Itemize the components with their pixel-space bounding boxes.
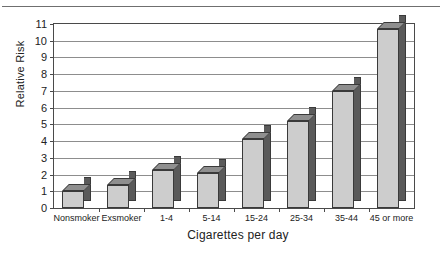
x-axis-category-label: 15-24	[245, 214, 268, 223]
x-axis-tick-mark	[99, 208, 100, 212]
bar	[152, 170, 174, 208]
y-axis-tick-mark	[50, 41, 54, 42]
x-axis-category-label: 1-4	[160, 214, 173, 223]
bar-front-face	[62, 191, 84, 208]
y-axis-tick-label: 7	[11, 85, 47, 96]
x-axis-category-label: Nonsmoker	[53, 214, 99, 223]
x-axis-tick-mark	[369, 208, 370, 212]
x-axis-tick-mark	[234, 208, 235, 212]
y-axis-tick-mark	[50, 124, 54, 125]
bar-front-face	[287, 121, 309, 208]
bar-side-face	[129, 171, 136, 201]
bar	[287, 121, 309, 208]
y-axis-tick-label: 1	[11, 186, 47, 197]
bar-front-face	[332, 91, 354, 208]
x-axis-tick-mark	[189, 208, 190, 212]
bar-side-face	[399, 15, 406, 201]
bar	[62, 191, 84, 208]
x-axis-tick-mark	[324, 208, 325, 212]
y-axis-tick-label: 0	[11, 203, 47, 214]
plot-area: 01234567891011NonsmokerExsmoker1-45-1415…	[53, 23, 415, 209]
y-axis-tick-label: 6	[11, 102, 47, 113]
bar	[197, 173, 219, 208]
x-axis-category-label: 25-34	[290, 214, 313, 223]
y-axis-tick-label: 10	[11, 35, 47, 46]
y-axis-tick-mark	[50, 141, 54, 142]
y-axis-tick-label: 5	[11, 119, 47, 130]
bar	[377, 29, 399, 208]
bar-side-face	[354, 77, 361, 201]
y-axis-tick-mark	[50, 175, 54, 176]
bar	[107, 185, 129, 208]
bar-chart-figure: Relative Risk 01234567891011NonsmokerExs…	[0, 0, 442, 256]
x-axis-category-label: Exsmoker	[101, 214, 141, 223]
gridline	[54, 41, 414, 42]
y-axis-tick-mark	[50, 57, 54, 58]
bar-front-face	[107, 185, 129, 208]
x-axis-tick-mark	[279, 208, 280, 212]
bar-front-face	[152, 170, 174, 208]
x-axis-title: Cigarettes per day	[0, 228, 442, 242]
y-axis-tick-label: 9	[11, 52, 47, 63]
bar-front-face	[242, 139, 264, 208]
bar	[332, 91, 354, 208]
y-axis-tick-mark	[50, 74, 54, 75]
x-axis-category-label: 5-14	[202, 214, 220, 223]
bar-front-face	[197, 173, 219, 208]
y-axis-tick-label: 4	[11, 136, 47, 147]
y-axis-tick-label: 8	[11, 69, 47, 80]
y-axis-tick-label: 2	[11, 169, 47, 180]
y-axis-tick-mark	[50, 24, 54, 25]
x-axis-title-text: Cigarettes per day	[187, 228, 289, 242]
x-axis-category-label: 45 or more	[370, 214, 414, 223]
y-axis-tick-mark	[50, 158, 54, 159]
y-axis-tick-label: 3	[11, 152, 47, 163]
bar-side-face	[309, 107, 316, 201]
y-axis-tick-mark	[50, 91, 54, 92]
y-axis-tick-mark	[50, 208, 54, 209]
gridline	[54, 57, 414, 58]
bar	[242, 139, 264, 208]
y-axis-tick-mark	[50, 108, 54, 109]
gridline	[54, 74, 414, 75]
y-axis-tick-label: 11	[11, 19, 47, 30]
x-axis-tick-mark	[144, 208, 145, 212]
x-axis-category-label: 35-44	[335, 214, 358, 223]
bar-front-face	[377, 29, 399, 208]
y-axis-tick-mark	[50, 191, 54, 192]
